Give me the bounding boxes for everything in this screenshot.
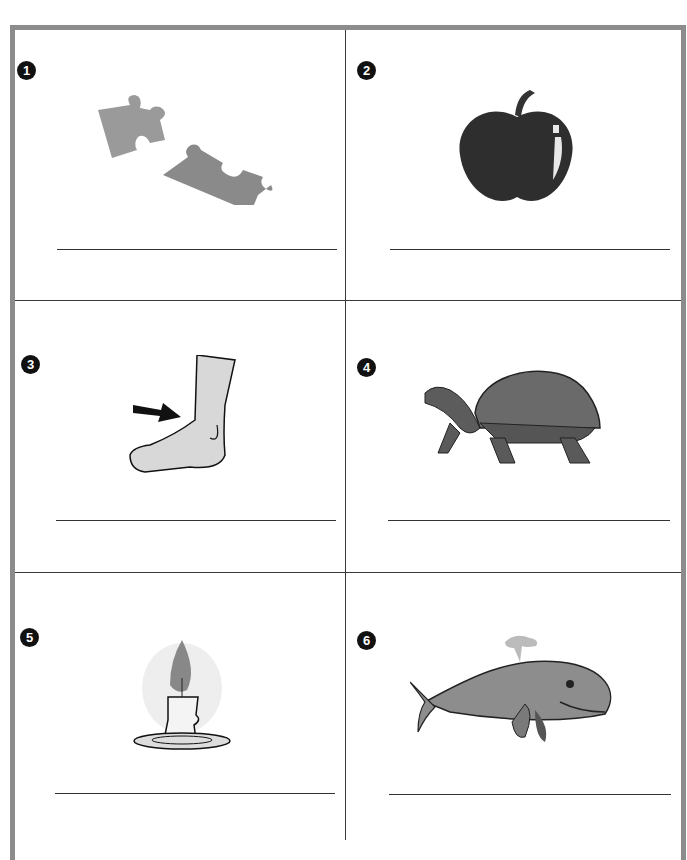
number-badge: 1 xyxy=(17,61,36,80)
answer-line[interactable] xyxy=(56,520,336,521)
row-divider-1 xyxy=(15,300,681,301)
column-divider xyxy=(345,30,346,840)
answer-line[interactable] xyxy=(389,794,671,795)
number-badge: 5 xyxy=(20,628,39,647)
candle-icon xyxy=(132,640,237,755)
answer-line[interactable] xyxy=(390,249,670,250)
whale-icon xyxy=(410,632,620,747)
row-divider-2 xyxy=(15,572,681,573)
answer-line[interactable] xyxy=(57,249,337,250)
tortoise-icon xyxy=(420,368,620,478)
apple-icon xyxy=(455,85,585,215)
number-badge: 6 xyxy=(357,631,376,650)
number-badge: 2 xyxy=(357,61,376,80)
number-badge: 3 xyxy=(21,355,40,374)
puzzle-pieces-icon xyxy=(95,85,275,205)
arrow-icon xyxy=(133,400,183,425)
number-badge: 4 xyxy=(357,358,376,377)
answer-line[interactable] xyxy=(388,520,670,521)
answer-line[interactable] xyxy=(55,793,335,794)
